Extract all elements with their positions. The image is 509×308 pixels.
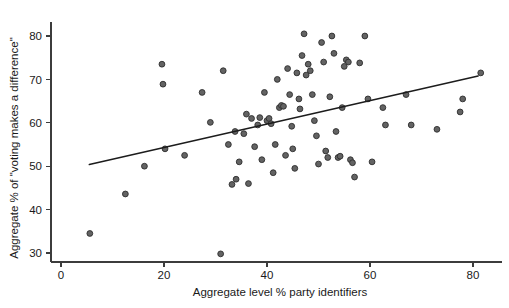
data-points-layer <box>87 31 484 257</box>
data-point <box>207 119 213 125</box>
y-tick-label: 60 <box>29 117 42 129</box>
data-point <box>296 96 302 102</box>
data-point <box>323 148 329 154</box>
data-point <box>220 68 226 74</box>
data-point <box>478 70 484 76</box>
data-point <box>229 182 235 188</box>
data-point <box>262 90 268 96</box>
data-point <box>297 106 303 112</box>
data-point <box>160 81 166 87</box>
data-point <box>283 152 289 158</box>
data-point <box>290 146 296 152</box>
data-point <box>122 191 128 197</box>
x-tick-label: 20 <box>158 269 171 281</box>
data-point <box>289 123 295 129</box>
data-point <box>199 90 205 96</box>
data-point <box>307 68 313 74</box>
x-tick-label: 40 <box>261 269 274 281</box>
data-point <box>408 122 414 128</box>
data-point <box>87 231 93 237</box>
data-point <box>287 92 293 98</box>
y-axis-ticks: 304050607080 <box>29 30 51 259</box>
data-point <box>285 66 291 72</box>
data-point <box>345 59 351 65</box>
data-point <box>257 115 263 121</box>
data-point <box>225 142 231 148</box>
data-point <box>233 176 239 182</box>
data-point <box>159 61 165 67</box>
x-axis-title: Aggregate level % party identifiers <box>193 286 368 298</box>
data-point <box>299 53 305 59</box>
data-point <box>270 170 276 176</box>
data-point <box>236 159 242 165</box>
data-point <box>244 111 250 117</box>
data-point <box>327 94 333 100</box>
data-point <box>259 157 265 163</box>
data-point <box>274 77 280 83</box>
data-point <box>460 96 466 102</box>
y-tick-label: 40 <box>29 204 42 216</box>
data-point <box>142 163 148 169</box>
data-point <box>301 31 307 37</box>
plot-canvas: 304050607080 020406080 Aggregate level %… <box>0 0 509 308</box>
data-point <box>380 105 386 111</box>
data-point <box>314 133 320 139</box>
scatter-plot-figure: 304050607080 020406080 Aggregate level %… <box>0 0 509 308</box>
x-axis-ticks: 020406080 <box>58 262 480 281</box>
data-point <box>292 165 298 171</box>
data-point <box>281 103 287 109</box>
x-tick-label: 0 <box>58 269 64 281</box>
data-point <box>182 152 188 158</box>
data-point <box>241 131 247 137</box>
data-point <box>249 116 255 122</box>
data-point <box>329 33 335 39</box>
data-point <box>333 129 339 135</box>
data-point <box>272 142 278 148</box>
y-tick-label: 80 <box>29 30 42 42</box>
data-point <box>357 60 363 66</box>
regression-fit-line <box>89 76 478 165</box>
data-point <box>311 118 317 124</box>
data-point <box>362 33 368 39</box>
data-point <box>218 251 224 257</box>
data-point <box>369 159 375 165</box>
y-tick-label: 70 <box>29 74 42 86</box>
data-point <box>319 40 325 46</box>
data-point <box>331 50 337 56</box>
data-point <box>316 161 322 167</box>
data-point <box>457 109 463 115</box>
data-point <box>337 153 343 159</box>
y-axis-title: Aggregate % of "voting makes a differenc… <box>8 37 20 258</box>
x-tick-label: 80 <box>467 269 480 281</box>
data-point <box>325 155 331 161</box>
data-point <box>383 122 389 128</box>
y-tick-label: 30 <box>29 247 42 259</box>
x-tick-label: 60 <box>364 269 377 281</box>
data-point <box>252 144 258 150</box>
data-point <box>352 174 358 180</box>
data-point <box>350 160 356 166</box>
data-point <box>309 92 315 98</box>
data-point <box>434 126 440 132</box>
data-point <box>246 181 252 187</box>
data-point <box>305 61 311 67</box>
data-point <box>321 59 327 65</box>
data-point <box>294 70 300 76</box>
y-tick-label: 50 <box>29 160 42 172</box>
